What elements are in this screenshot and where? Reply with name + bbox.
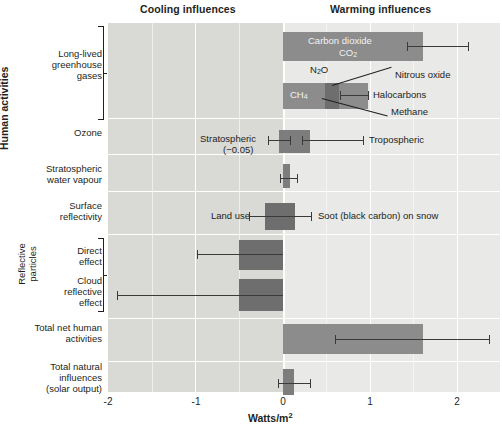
label-nitrous-oxide-formula: N2O [310,64,328,75]
label-nitrous-oxide: Nitrous oxide [395,69,450,80]
gridline-x--1 [195,23,196,392]
errorbar-cap-halocarbons-low [340,91,341,100]
errorbar-total-net-human-activities [335,339,490,340]
errorbar-halocarbons [340,95,368,96]
gridline-x--1-5 [152,23,153,392]
errorbar-cap-total-net-low [335,335,336,344]
xtick-2: 2 [442,396,472,407]
x-axis-title: Watts/m2 [248,411,293,424]
errorbar-cap-swv-low [280,174,281,183]
errorbar-cap-swv-high [297,174,298,183]
bar-aerosol-direct-effect [239,240,283,270]
label-land-use: Land use [211,210,250,221]
xtick--1: -1 [181,396,211,407]
gridline-row-4 [108,234,500,235]
label-methane-formula: CH4 [290,89,308,100]
errorbar-cap-ozone-trop-high [363,136,364,145]
errorbar-surface-reflectivity [249,216,312,217]
row-label-ozone: Ozone [14,127,102,138]
errorbar-aerosol-direct-effect [197,254,283,255]
errorbar-cap-total-net-high [489,335,490,344]
label-co2-formula: CO2 [339,47,357,58]
gridline-row-3 [108,191,500,192]
gridline-row-6 [108,361,500,362]
label-methane: Methane [391,106,428,117]
label-stratospheric-ozone-value: (−0.05) [223,144,253,155]
row-label-long-lived-greenhouse-gases: Long-livedgreenhousegases [14,48,102,81]
row-label-total-natural-influences: Total naturalinfluences(solar output) [6,361,102,394]
gridline-row-5 [108,318,500,319]
cooling-influences-header: Cooling influences [140,3,236,15]
plot-area: Carbon dioxide CO2 CH4 N2O Nitrous oxide… [108,23,500,392]
row-label-direct-effect: Directeffect [34,245,102,267]
gridline-row-1 [108,118,500,119]
bar-nitrous-oxide [325,83,339,109]
row-label-total-net-human-activities: Total net humanactivities [6,322,102,344]
row-label-stratospheric-water-vapour: Stratosphericwater vapour [14,163,102,185]
label-stratospheric-ozone: Stratospheric [200,133,256,144]
bar-ozone [279,130,310,153]
bar-stratospheric-water-vapour [283,164,290,188]
label-soot-on-snow: Soot (black carbon) on snow [318,210,438,221]
radiative-forcing-figure: Cooling influences Warming influences Hu… [0,0,502,434]
brace-long-lived-greenhouse-gases [98,26,104,120]
errorbar-cap-halocarbons-high [368,91,369,100]
row-label-surface-reflectivity: Surfacereflectivity [14,200,102,222]
errorbar-cap-surface-reflectivity-high [311,212,312,221]
label-carbon-dioxide: Carbon dioxide [308,35,372,46]
errorbar-cap-cloud-effect-low [117,291,118,300]
errorbar-cap-carbon-dioxide-low [407,42,408,51]
warming-influences-header: Warming influences [330,3,431,15]
label-halocarbons: Halocarbons [373,89,426,100]
errorbar-cap-ozone-strat-high [290,136,291,145]
bar-halocarbons [339,83,368,109]
xtick--2: -2 [93,396,123,407]
label-tropospheric-ozone: Tropospheric [369,134,424,145]
brace-reflective-particles [98,238,104,312]
row-label-cloud-reflective-effect: Cloudreflectiveeffect [34,275,102,308]
gridline-row-2 [108,154,500,155]
errorbar-ozone-tropospheric [302,140,364,141]
errorbar-cap-ozone-strat-low [268,136,269,145]
errorbar-carbon-dioxide [407,46,469,47]
errorbar-stratospheric-water-vapour [280,178,298,179]
xtick-1: 1 [355,396,385,407]
errorbar-ozone-stratospheric [268,140,290,141]
group-label-reflective-particles: Reflectiveparticles [16,228,38,300]
xtick-0: 0 [268,396,298,407]
y-axis-title: Human activities [0,67,10,150]
bar-total-natural-influences [283,369,294,395]
gridline-x--0-5 [239,23,240,392]
errorbar-total-natural-influences [278,383,311,384]
errorbar-cap-direct-effect-low [197,250,198,259]
errorbar-aerosol-cloud-reflective-effect [117,295,283,296]
gridline-x-2 [457,23,458,392]
errorbar-cap-ozone-trop-low [302,136,303,145]
errorbar-cap-total-natural-high [310,379,311,388]
errorbar-cap-total-natural-low [278,379,279,388]
errorbar-cap-carbon-dioxide-high [468,42,469,51]
